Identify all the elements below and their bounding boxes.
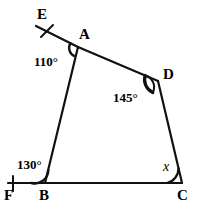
geometry-canvas — [0, 0, 206, 217]
vertex-label-f: F — [4, 188, 13, 203]
vertex-label-b: B — [39, 188, 49, 203]
vertex-label-a: A — [79, 27, 90, 42]
vertex-label-c: C — [177, 188, 188, 203]
angle-label-d: 145° — [113, 91, 138, 104]
vertex-label-d: D — [163, 67, 174, 82]
angle-label-a: 110° — [34, 55, 58, 68]
vertex-label-e: E — [37, 7, 47, 22]
angle-label-b: 130° — [17, 158, 42, 171]
angle-label-c-unknown: x — [163, 160, 169, 174]
geometry-figure: A B C D E F 110° 145° 130° x — [0, 0, 206, 217]
tick-on-ray-AE-icon — [41, 25, 53, 37]
